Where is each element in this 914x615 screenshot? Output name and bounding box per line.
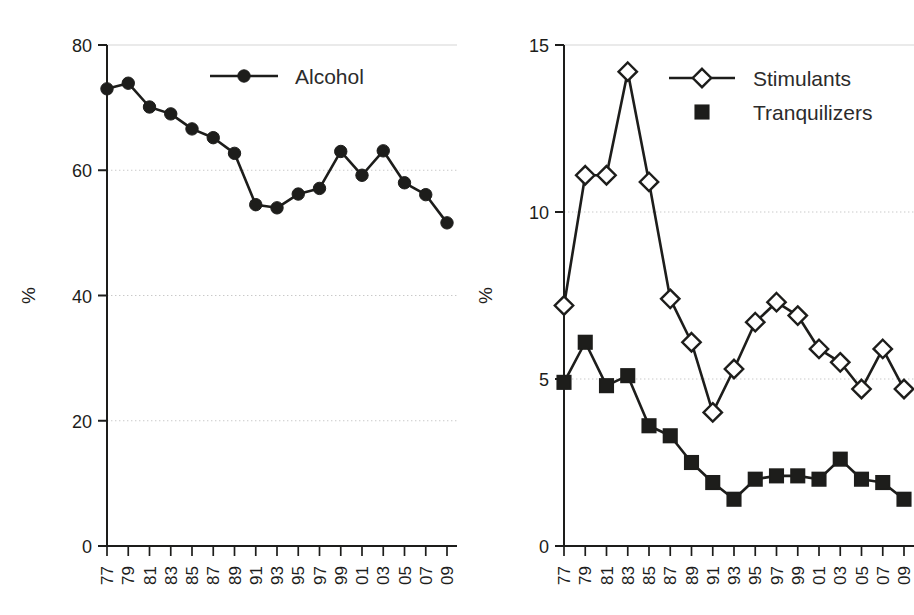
datapoint-tranquilizers-95-marker-square bbox=[749, 472, 763, 486]
x-tick-label-97: 97 bbox=[768, 566, 787, 585]
stimulants-tranquilizers-line-chart: 051015%777981838587899193959799010305070… bbox=[457, 0, 914, 615]
legend-label-tranquilizers: Tranquilizers bbox=[753, 101, 872, 124]
datapoint-alcohol-79-marker-circle bbox=[122, 77, 134, 89]
x-tick-label-91: 91 bbox=[704, 566, 723, 585]
x-tick-label-83: 83 bbox=[162, 566, 181, 585]
datapoint-stimulants-01-marker-diamond bbox=[810, 340, 828, 358]
datapoint-tranquilizers-99-marker-square bbox=[791, 469, 805, 483]
datapoint-stimulants-81-marker-diamond bbox=[597, 166, 615, 184]
datapoint-stimulants-07-marker-diamond bbox=[874, 340, 892, 358]
left-chart-panel: 020406080%777981838587899193959799010305… bbox=[0, 0, 457, 615]
legend: Alcohol bbox=[210, 65, 364, 88]
datapoint-alcohol-93-marker-circle bbox=[271, 202, 283, 214]
y-tick-label-15: 15 bbox=[529, 36, 549, 56]
x-tick-label-09: 09 bbox=[895, 566, 914, 585]
y-axis-title: % bbox=[475, 287, 496, 304]
x-tick-label-01: 01 bbox=[810, 566, 829, 585]
x-tick-label-77: 77 bbox=[555, 566, 574, 585]
datapoint-alcohol-81-marker-circle bbox=[143, 101, 155, 113]
x-tick-label-99: 99 bbox=[332, 566, 351, 585]
datapoint-alcohol-05-marker-circle bbox=[398, 177, 410, 189]
x-tick-label-05: 05 bbox=[853, 566, 872, 585]
datapoint-tranquilizers-83-marker-square bbox=[621, 369, 635, 383]
datapoint-tranquilizers-85-marker-square bbox=[642, 419, 656, 433]
datapoint-alcohol-85-marker-circle bbox=[186, 123, 198, 135]
x-tick-label-03: 03 bbox=[831, 566, 850, 585]
datapoint-stimulants-99-marker-diamond bbox=[789, 306, 807, 324]
x-tick-label-79: 79 bbox=[576, 566, 595, 585]
datapoint-stimulants-93-marker-diamond bbox=[725, 360, 743, 378]
y-tick-label-20: 20 bbox=[72, 412, 92, 432]
x-tick-label-89: 89 bbox=[226, 566, 245, 585]
right-chart-panel: 051015%777981838587899193959799010305070… bbox=[457, 0, 914, 615]
datapoint-alcohol-97-marker-circle bbox=[313, 182, 325, 194]
datapoint-stimulants-77-marker-diamond bbox=[555, 296, 573, 314]
x-tick-label-95: 95 bbox=[289, 566, 308, 585]
datapoint-tranquilizers-91-marker-square bbox=[706, 476, 720, 490]
x-tick-label-85: 85 bbox=[640, 566, 659, 585]
datapoint-stimulants-09-marker-diamond bbox=[895, 380, 913, 398]
datapoint-stimulants-87-marker-diamond bbox=[661, 290, 679, 308]
x-tick-label-89: 89 bbox=[683, 566, 702, 585]
chart-figure: 020406080%777981838587899193959799010305… bbox=[0, 0, 914, 615]
datapoint-stimulants-89-marker-diamond bbox=[682, 333, 700, 351]
x-tick-label-87: 87 bbox=[204, 566, 223, 585]
datapoint-alcohol-09-marker-circle bbox=[441, 217, 453, 229]
y-tick-label-40: 40 bbox=[72, 287, 92, 307]
datapoint-tranquilizers-89-marker-square bbox=[685, 456, 699, 470]
x-tick-label-85: 85 bbox=[183, 566, 202, 585]
x-tick-label-07: 07 bbox=[417, 566, 436, 585]
datapoint-alcohol-83-marker-circle bbox=[165, 108, 177, 120]
series-alcohol bbox=[101, 77, 453, 229]
x-tick-label-09: 09 bbox=[438, 566, 457, 585]
legend-label-alcohol: Alcohol bbox=[295, 65, 364, 88]
datapoint-alcohol-01-marker-circle bbox=[356, 169, 368, 181]
datapoint-tranquilizers-79-marker-square bbox=[579, 336, 593, 350]
datapoint-alcohol-95-marker-circle bbox=[292, 188, 304, 200]
gridlines bbox=[564, 45, 914, 379]
datapoint-stimulants-83-marker-diamond bbox=[619, 63, 637, 81]
datapoint-tranquilizers-97-marker-square bbox=[770, 469, 784, 483]
datapoint-tranquilizers-77-marker-square bbox=[557, 376, 571, 390]
y-axis-title: % bbox=[18, 287, 39, 304]
x-axis: 7779818385878991939597990103050709 bbox=[98, 546, 457, 585]
x-tick-label-87: 87 bbox=[661, 566, 680, 585]
datapoint-tranquilizers-87-marker-square bbox=[664, 429, 678, 443]
y-tick-label-0: 0 bbox=[539, 537, 549, 557]
x-tick-label-81: 81 bbox=[141, 566, 160, 585]
datapoint-tranquilizers-03-marker-square bbox=[834, 452, 848, 466]
x-axis: 7779818385878991939597990103050709 bbox=[555, 546, 914, 585]
x-tick-label-93: 93 bbox=[268, 566, 287, 585]
x-tick-label-99: 99 bbox=[789, 566, 808, 585]
datapoint-alcohol-99-marker-circle bbox=[335, 145, 347, 157]
datapoint-alcohol-03-marker-circle bbox=[377, 145, 389, 157]
legend-swatch-alcohol-marker-circle bbox=[238, 70, 250, 82]
datapoint-stimulants-91-marker-diamond bbox=[704, 403, 722, 421]
y-tick-label-80: 80 bbox=[72, 36, 92, 56]
datapoint-tranquilizers-01-marker-square bbox=[812, 472, 826, 486]
datapoint-alcohol-91-marker-circle bbox=[250, 198, 262, 210]
datapoint-tranquilizers-09-marker-square bbox=[897, 492, 911, 506]
datapoint-alcohol-87-marker-circle bbox=[207, 131, 219, 143]
x-tick-label-91: 91 bbox=[247, 566, 266, 585]
x-tick-label-07: 07 bbox=[874, 566, 893, 585]
y-axis: 020406080 bbox=[72, 36, 107, 557]
datapoint-alcohol-07-marker-circle bbox=[420, 188, 432, 200]
datapoint-tranquilizers-07-marker-square bbox=[876, 476, 890, 490]
x-tick-label-93: 93 bbox=[725, 566, 744, 585]
legend-label-stimulants: Stimulants bbox=[753, 67, 851, 90]
x-tick-label-05: 05 bbox=[396, 566, 415, 585]
datapoint-tranquilizers-81-marker-square bbox=[600, 379, 614, 393]
x-tick-label-83: 83 bbox=[619, 566, 638, 585]
x-tick-label-03: 03 bbox=[374, 566, 393, 585]
datapoint-stimulants-85-marker-diamond bbox=[640, 173, 658, 191]
legend: StimulantsTranquilizers bbox=[669, 67, 872, 124]
datapoint-tranquilizers-05-marker-square bbox=[855, 472, 869, 486]
datapoint-stimulants-79-marker-diamond bbox=[576, 166, 594, 184]
datapoint-tranquilizers-93-marker-square bbox=[727, 492, 741, 506]
x-tick-label-97: 97 bbox=[311, 566, 330, 585]
x-tick-label-81: 81 bbox=[598, 566, 617, 585]
gridlines bbox=[107, 45, 457, 421]
x-tick-label-95: 95 bbox=[746, 566, 765, 585]
y-tick-label-0: 0 bbox=[82, 537, 92, 557]
